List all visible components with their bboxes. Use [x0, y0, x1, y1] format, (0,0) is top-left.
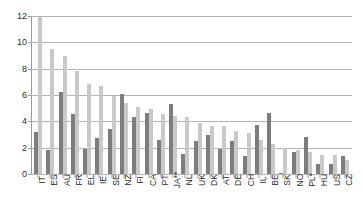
bar-series-2	[283, 148, 287, 174]
bar-group	[290, 16, 302, 174]
x-tick: BE	[265, 175, 277, 210]
y-tick-label: 10	[17, 38, 27, 47]
x-tick: ES	[44, 175, 56, 210]
bar-group	[179, 16, 191, 174]
bar-group	[253, 16, 265, 174]
x-tick: PT	[155, 175, 167, 210]
bar-series-2	[210, 126, 214, 174]
bar-group	[339, 16, 351, 174]
bar-series-2	[149, 109, 153, 174]
bar-group	[32, 16, 44, 174]
x-tick: IE	[93, 175, 105, 210]
bar-series-2	[247, 133, 251, 174]
bar-group	[277, 16, 289, 174]
x-tick: JA**	[167, 175, 179, 210]
bar-group	[191, 16, 203, 174]
bar-group	[314, 16, 326, 174]
bar-group	[93, 16, 105, 174]
x-axis-labels: ITESAUFRELIESENZFICAPTJA**NLUKDKATDECHIL…	[31, 175, 352, 210]
bar-series-2	[320, 155, 324, 174]
bar-series-2	[75, 71, 79, 174]
x-tick: AU	[57, 175, 69, 210]
x-tick: US	[326, 175, 338, 210]
y-tick-label: 8	[22, 64, 27, 73]
bar-series-container	[31, 16, 352, 174]
bar-group	[106, 16, 118, 174]
bar-group	[241, 16, 253, 174]
x-tick: DE	[228, 175, 240, 210]
x-tick: SE	[106, 175, 118, 210]
x-tick: CA	[142, 175, 154, 210]
plot-area: 024681012	[31, 16, 352, 174]
bar-group	[216, 16, 228, 174]
bar-series-2	[63, 56, 67, 175]
bar-series-2	[173, 116, 177, 174]
bar-series-2	[345, 160, 349, 174]
bar-series-2	[161, 114, 165, 174]
x-tick: PL*	[302, 175, 314, 210]
bar-series-2	[87, 84, 91, 174]
y-tick-label: 12	[17, 12, 27, 21]
bar-series-2	[333, 155, 337, 174]
x-tick: FR	[69, 175, 81, 210]
y-tick-label: 6	[22, 91, 27, 100]
bar-series-2	[259, 140, 263, 174]
x-tick: CZ	[339, 175, 351, 210]
y-tick-label: 2	[22, 143, 27, 152]
x-tick: AT	[216, 175, 228, 210]
x-tick: CH	[241, 175, 253, 210]
bar-series-2	[38, 17, 42, 174]
bar-group	[204, 16, 216, 174]
bar-series-2	[234, 131, 238, 174]
bar-series-2	[222, 126, 226, 174]
bar-series-2	[50, 49, 54, 174]
bar-chart: 024681012 ITESAUFRELIESENZFICAPTJA**NLUK…	[0, 0, 362, 210]
bar-series-2	[296, 150, 300, 174]
bar-group	[69, 16, 81, 174]
bar-group	[326, 16, 338, 174]
bar-group	[44, 16, 56, 174]
y-tick-label: 0	[22, 170, 27, 179]
bar-series-2	[124, 103, 128, 174]
x-tick: NO	[290, 175, 302, 210]
bar-series-2	[185, 117, 189, 174]
y-tick-label: 4	[22, 117, 27, 126]
bar-group	[130, 16, 142, 174]
bar-series-2	[198, 123, 202, 174]
x-tick: SK	[277, 175, 289, 210]
bar-series-2	[99, 86, 103, 174]
x-tick-label: CZ	[345, 174, 354, 185]
bar-group	[57, 16, 69, 174]
x-tick: IL	[253, 175, 265, 210]
bar-group	[265, 16, 277, 174]
bar-group	[81, 16, 93, 174]
bar-series-2	[112, 96, 116, 174]
bar-series-2	[308, 152, 312, 174]
x-tick: HU	[314, 175, 326, 210]
bar-group	[302, 16, 314, 174]
bar-series-2	[136, 107, 140, 174]
x-tick: FI	[130, 175, 142, 210]
x-tick: EL	[81, 175, 93, 210]
x-tick: NL	[179, 175, 191, 210]
x-tick: DK	[204, 175, 216, 210]
bar-group	[167, 16, 179, 174]
bar-group	[228, 16, 240, 174]
bar-group	[155, 16, 167, 174]
x-tick: IT	[32, 175, 44, 210]
bar-group	[142, 16, 154, 174]
bar-group	[118, 16, 130, 174]
bar-series-2	[271, 144, 275, 174]
x-tick: NZ	[118, 175, 130, 210]
x-tick: UK	[191, 175, 203, 210]
